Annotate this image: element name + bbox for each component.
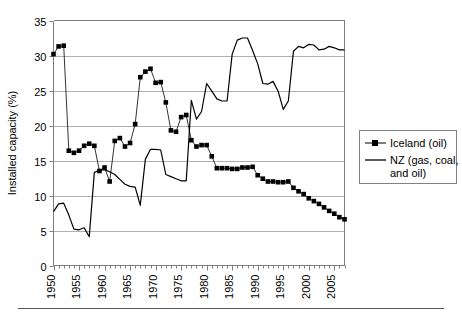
data-point-marker (158, 80, 163, 85)
data-point-marker (230, 167, 235, 172)
y-axis-tick-labels: 05101520253035 (34, 16, 46, 273)
data-point-marker (250, 165, 255, 170)
data-point-marker (67, 148, 72, 153)
x-axis-tick-labels: 1950195519601965197019751980198519901995… (45, 275, 337, 299)
data-point-marker (56, 44, 61, 49)
line-chart: 05101520253035 1950195519601965197019751… (0, 0, 462, 321)
data-point-marker (286, 179, 291, 184)
y-tick-label: 30 (34, 51, 46, 63)
data-point-marker (194, 144, 199, 149)
x-tick-label: 1980 (198, 275, 210, 299)
data-point-marker (97, 169, 102, 174)
data-point-marker (342, 217, 347, 222)
y-tick-label: 20 (34, 121, 46, 133)
y-axis-title: Installed capacity (%) (6, 91, 18, 196)
data-point-marker (118, 136, 123, 141)
data-point-marker (123, 144, 128, 149)
data-point-marker (215, 166, 220, 171)
chart-figure: 05101520253035 1950195519601965197019751… (0, 0, 462, 321)
x-tick-label: 1990 (249, 275, 261, 299)
data-point-marker (317, 202, 322, 207)
x-tick-label: 1985 (223, 275, 235, 299)
x-axis-ticks (55, 266, 346, 271)
data-point-marker (199, 143, 204, 148)
data-point-marker (271, 179, 276, 184)
data-point-marker (204, 143, 209, 148)
data-point-marker (296, 189, 301, 194)
data-point-marker (184, 113, 189, 118)
data-point-marker (148, 67, 153, 72)
data-point-marker (51, 52, 56, 57)
data-point-marker (153, 81, 158, 86)
data-point-marker (327, 209, 332, 214)
chart-legend: Iceland (oil) NZ (gas, coal, and oil) (360, 131, 459, 184)
data-point-marker (240, 165, 245, 170)
data-point-marker (189, 138, 194, 143)
legend-item-label-nz-line2: and oil) (390, 167, 426, 179)
data-point-marker (235, 167, 240, 172)
data-point-marker (209, 154, 214, 159)
x-tick-label: 2005 (325, 275, 337, 299)
data-point-marker (112, 139, 117, 144)
x-tick-label: 1995 (274, 275, 286, 299)
x-tick-label: 1955 (70, 275, 82, 299)
x-tick-label: 1960 (96, 275, 108, 299)
data-point-marker (266, 179, 271, 184)
data-point-marker (77, 148, 82, 153)
data-point-marker (291, 186, 296, 191)
y-tick-label: 10 (34, 191, 46, 203)
data-point-marker (61, 43, 66, 48)
data-point-marker (169, 128, 174, 133)
legend-swatch-iceland-marker (372, 140, 378, 146)
plot-background (54, 21, 345, 266)
data-point-marker (143, 69, 148, 74)
data-point-marker (322, 205, 327, 210)
x-tick-label: 1950 (45, 275, 57, 299)
data-point-marker (102, 165, 107, 170)
data-point-marker (261, 176, 266, 181)
data-point-marker (138, 75, 143, 80)
data-point-marker (174, 130, 179, 135)
y-tick-label: 0 (40, 261, 46, 273)
y-tick-label: 15 (34, 156, 46, 168)
data-point-marker (164, 100, 169, 105)
data-point-marker (255, 173, 260, 178)
y-axis-ticks (50, 22, 54, 267)
data-point-marker (72, 151, 77, 156)
data-point-marker (87, 141, 92, 146)
data-point-marker (332, 211, 337, 216)
data-point-marker (179, 115, 184, 120)
data-point-marker (306, 196, 311, 201)
data-point-marker (82, 144, 87, 149)
data-point-marker (133, 122, 138, 127)
y-tick-label: 25 (34, 86, 46, 98)
data-point-marker (225, 166, 230, 171)
x-tick-label: 1965 (121, 275, 133, 299)
data-point-marker (281, 180, 286, 185)
data-point-marker (92, 144, 97, 149)
data-point-marker (337, 215, 342, 220)
legend-item-label-iceland: Iceland (oil) (390, 137, 447, 149)
data-point-marker (128, 141, 133, 146)
x-tick-label: 2000 (300, 275, 312, 299)
data-point-marker (276, 180, 281, 185)
x-tick-label: 1975 (172, 275, 184, 299)
x-tick-label: 1970 (147, 275, 159, 299)
legend-item-label-nz-line1: NZ (gas, coal, (390, 154, 458, 166)
y-tick-label: 35 (34, 16, 46, 28)
data-point-marker (220, 166, 225, 171)
data-point-marker (301, 192, 306, 197)
y-tick-label: 5 (40, 226, 46, 238)
data-point-marker (107, 179, 112, 184)
data-point-marker (245, 165, 250, 170)
data-point-marker (312, 199, 317, 204)
